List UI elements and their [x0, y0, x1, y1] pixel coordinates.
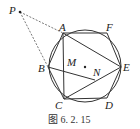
- center-point: [84, 66, 86, 68]
- point-p: [19, 11, 22, 14]
- label-e: E: [122, 61, 130, 73]
- label-n: N: [92, 66, 101, 78]
- label-p: P: [8, 4, 16, 16]
- label-c: C: [55, 99, 63, 111]
- label-d: D: [104, 99, 113, 111]
- label-a: A: [58, 21, 66, 33]
- segment-ac: [63, 33, 64, 99]
- label-f: F: [105, 21, 113, 33]
- dashed-pa: [20, 12, 63, 33]
- segment-bn: [48, 67, 95, 80]
- label-m: M: [66, 56, 77, 68]
- label-b: B: [38, 62, 45, 74]
- dashed-pb: [20, 12, 48, 67]
- geometry-figure: P A F E D C B M N 图 6. 2. 15: [0, 0, 140, 129]
- figure-caption: 图 6. 2. 15: [48, 114, 91, 125]
